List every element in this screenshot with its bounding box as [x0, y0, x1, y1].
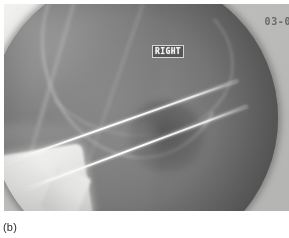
- figure-container: RIGHT 03-0 (b): [0, 0, 289, 238]
- timestamp-overlay-label: 03-0: [265, 16, 289, 27]
- image-intensifier-field: [4, 4, 278, 211]
- radiograph-image: RIGHT 03-0: [4, 4, 289, 211]
- laterality-overlay-label: RIGHT: [152, 45, 184, 58]
- figure-caption: (b): [3, 220, 17, 234]
